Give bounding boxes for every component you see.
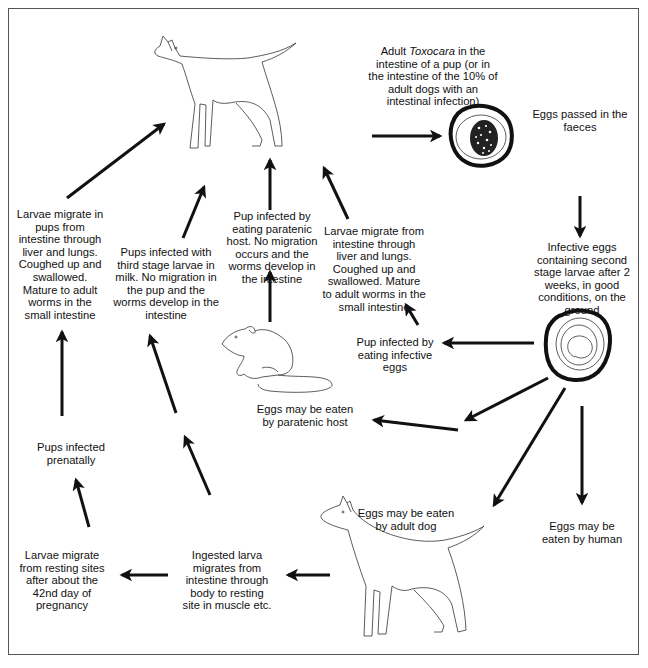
- label-larvae-resting: Larvae migrate from resting sites after …: [16, 549, 108, 612]
- arrow-to-milk: [150, 336, 176, 413]
- label-eggs-human: Eggs may be eaten by human: [534, 520, 630, 545]
- label-larvae-migrate-pups: Larvae migrate in pups from intestine th…: [14, 208, 106, 321]
- label-pup-infective-eggs: Pup infected by eating infective eggs: [354, 336, 436, 374]
- label-adult-toxocara: Adult Toxocara in the intestine of a pup…: [368, 45, 498, 108]
- arrow-ingested-to-milk: [185, 437, 210, 495]
- label-eggs-faeces: Eggs passed in the faeces: [528, 108, 632, 133]
- arrows: [62, 124, 582, 575]
- label-eggs-paratenic: Eggs may be eaten by paratenic host: [250, 403, 360, 428]
- infective-egg-illustration: [546, 311, 610, 380]
- label-ingested-larva: Ingested larva migrates from intestine t…: [182, 549, 272, 612]
- rat-illustration: [222, 327, 332, 393]
- label-pups-milk: Pups infected with third stage larvae in…: [112, 246, 220, 322]
- arrow-milk-to-pup: [183, 187, 204, 238]
- label-pup-paratenic: Pup infected by eating paratenic host. N…: [220, 210, 324, 286]
- label-infective-eggs: Infective eggs containing second stage l…: [530, 241, 634, 317]
- egg-with-worms-illustration: [451, 106, 512, 166]
- arrow-migrate-pups-to-pup: [67, 124, 164, 198]
- label-larvae-migrate-center: Larvae migrate from intestine through li…: [322, 225, 426, 313]
- pup-illustration: [155, 36, 296, 148]
- arrow-egg-to-adult-dog: [494, 388, 565, 505]
- arrow-resting-to-prenatal: [76, 480, 89, 527]
- label-eggs-adult-dog: Eggs may be eaten by adult dog: [356, 507, 456, 532]
- label-pups-prenatally: Pups infected prenatally: [36, 441, 106, 466]
- arrow-to-paratenic-host: [374, 420, 458, 430]
- arrow-center-text-to-pup: [324, 168, 348, 219]
- arrow-egg-to-paratenic-a: [466, 378, 548, 420]
